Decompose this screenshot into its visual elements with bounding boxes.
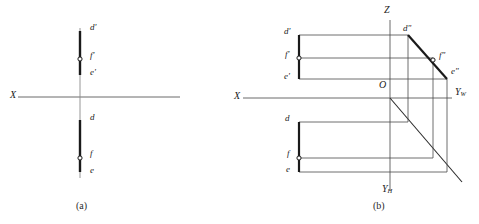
technical-drawing-svg bbox=[0, 0, 479, 224]
a-label-e-prime: e' bbox=[90, 68, 96, 77]
b-label-e: e bbox=[286, 165, 290, 174]
caption-a: (a) bbox=[76, 201, 87, 211]
b-label-e-double-prime: e" bbox=[451, 67, 459, 76]
b-point-f-marker bbox=[297, 156, 301, 160]
b-axis-label-yh-subscript: H bbox=[388, 187, 393, 194]
b-mitre-line bbox=[390, 98, 462, 182]
caption-b: (b) bbox=[373, 201, 385, 211]
a-point-f-prime-marker bbox=[78, 57, 82, 61]
b-point-f-prime-marker bbox=[297, 56, 301, 60]
b-label-origin: O bbox=[379, 80, 386, 90]
diagram-a-group bbox=[18, 28, 180, 178]
b-point-f-double-prime-marker bbox=[431, 58, 435, 62]
b-axis-label-x: X bbox=[234, 91, 240, 101]
b-axis-label-yh: YH bbox=[382, 184, 392, 195]
a-point-f-marker bbox=[78, 156, 82, 160]
b-label-d-double-prime: d" bbox=[403, 24, 411, 33]
diagram-b-group bbox=[243, 20, 462, 190]
b-label-f-prime: f' bbox=[285, 50, 289, 59]
b-axis-label-z: Z bbox=[384, 5, 390, 15]
b-axis-label-yw-subscript: W bbox=[461, 90, 466, 97]
a-label-e: e bbox=[90, 166, 94, 175]
b-label-f-double-prime: f" bbox=[439, 51, 445, 60]
b-axis-label-yw: YW bbox=[455, 87, 466, 98]
a-label-f: f bbox=[90, 149, 93, 158]
a-label-f-prime: f' bbox=[90, 51, 94, 60]
b-label-f: f bbox=[287, 149, 290, 158]
a-label-d-prime: d' bbox=[90, 23, 96, 32]
b-label-d: d bbox=[285, 114, 290, 123]
a-label-d: d bbox=[90, 113, 95, 122]
figure-canvas: X d' f' e' d f e (a) Z X YW YH O d' f' e… bbox=[0, 0, 479, 224]
a-axis-label-x: X bbox=[10, 90, 16, 100]
b-label-d-prime: d' bbox=[284, 27, 290, 36]
b-label-e-prime: e' bbox=[284, 72, 290, 81]
